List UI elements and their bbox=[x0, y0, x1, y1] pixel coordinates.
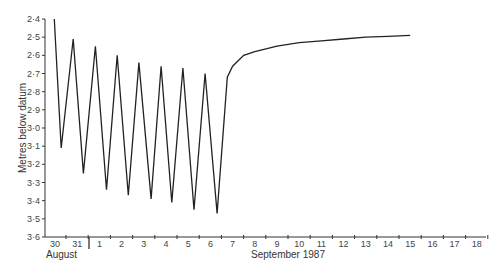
y-tick-label: 3·3 bbox=[27, 178, 40, 188]
x-tick-label: 11 bbox=[317, 239, 326, 249]
y-tick-label: 3·5 bbox=[27, 214, 40, 224]
x-tick-label: 1 bbox=[97, 239, 102, 249]
x-tick-label: 7 bbox=[230, 239, 235, 249]
x-tick-label: 8 bbox=[252, 239, 257, 249]
y-tick-label: 2·7 bbox=[27, 69, 40, 79]
y-tick-label: 3·0 bbox=[27, 123, 40, 133]
y-tick-label: 2·5 bbox=[27, 32, 40, 42]
y-tick-label: 2·4 bbox=[27, 14, 40, 24]
x-tick-label: 14 bbox=[383, 239, 393, 249]
y-axis: 2·42·52·62·72·82·93·03·13·23·33·43·53·6 bbox=[27, 14, 45, 242]
x-tick-label: 17 bbox=[450, 239, 460, 249]
x-axis-label-august: August bbox=[46, 249, 77, 260]
x-tick-label: 12 bbox=[339, 239, 349, 249]
x-tick-label: 30 bbox=[50, 239, 60, 249]
y-tick-label: 3·6 bbox=[27, 232, 40, 242]
x-tick-label: 2 bbox=[119, 239, 124, 249]
x-tick-label: 3 bbox=[141, 239, 146, 249]
x-tick-label: 6 bbox=[208, 239, 213, 249]
x-tick-label: 5 bbox=[186, 239, 191, 249]
y-tick-label: 3·4 bbox=[27, 196, 40, 206]
x-axis-label-september: September 1987 bbox=[251, 249, 325, 260]
x-axis: 3031123456789101112131415161718 bbox=[45, 235, 488, 249]
y-tick-label: 2·6 bbox=[27, 50, 40, 60]
x-tick-label: 9 bbox=[274, 239, 279, 249]
y-axis-label: Metres below datum bbox=[17, 83, 28, 173]
x-tick-label: 15 bbox=[405, 239, 415, 249]
water-level-line bbox=[54, 19, 410, 213]
x-tick-label: 16 bbox=[427, 239, 437, 249]
y-tick-label: 2·9 bbox=[27, 105, 40, 115]
x-tick-label: 4 bbox=[163, 239, 168, 249]
y-tick-label: 3·2 bbox=[27, 159, 40, 169]
x-tick-label: 31 bbox=[72, 239, 82, 249]
y-tick-label: 3·1 bbox=[27, 141, 40, 151]
x-tick-label: 18 bbox=[472, 239, 482, 249]
x-tick-label: 13 bbox=[361, 239, 371, 249]
x-tick-label: 10 bbox=[294, 239, 304, 249]
y-tick-label: 2·8 bbox=[27, 87, 40, 97]
water-level-chart: 2·42·52·62·72·82·93·03·13·23·33·43·53·6 … bbox=[0, 0, 498, 273]
